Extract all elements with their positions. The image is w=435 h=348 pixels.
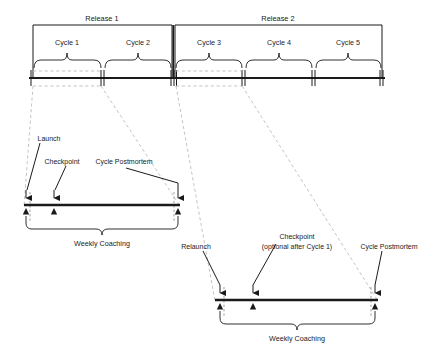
- diagram-canvas: Release 1 Release 2 Cycle 1 Cycle 2 Cycl…: [0, 0, 435, 348]
- release-label-1: Release 1: [85, 14, 118, 23]
- detail-left-down-arrows: [26, 190, 178, 198]
- leader-checkpoint: [55, 166, 66, 190]
- release-box-2: [175, 25, 382, 78]
- detail-right-brace: [220, 311, 375, 330]
- connector-left-a: [24, 86, 33, 206]
- cycle-label-3: Cycle 3: [197, 38, 221, 47]
- detail-left-brace: [26, 216, 178, 235]
- cycle-label-4: Cycle 4: [267, 38, 291, 47]
- annotation-checkpoint-right-sublabel: (optional after Cycle 1): [262, 243, 332, 251]
- detail-left: Launch Checkpoint Cycle Postmortem: [23, 135, 181, 248]
- detail-right: Relaunch Checkpoint (optional after Cycl…: [181, 233, 418, 343]
- connector-right-a: [176, 86, 215, 301]
- leader-cycle-postmortem: [126, 168, 178, 190]
- annotation-checkpoint-right-label: Checkpoint: [279, 233, 314, 241]
- annotation-launch-label: Launch: [38, 135, 61, 142]
- detail-left-up-triangles: [23, 208, 181, 215]
- release-label-2: Release 2: [261, 14, 294, 23]
- connector-fans: [24, 86, 378, 301]
- cycle-label-2: Cycle 2: [126, 38, 150, 47]
- detail-right-up-triangles: [217, 303, 378, 310]
- cycle-label-5: Cycle 5: [336, 38, 360, 47]
- annotation-cycle-postmortem-label: Cycle Postmortem: [95, 158, 152, 166]
- detail-left-brace-label: Weekly Coaching: [74, 239, 130, 248]
- detail-right-down-arrows: [220, 285, 375, 293]
- leader-cycle-postmortem-right: [375, 251, 382, 285]
- annotation-cycle-postmortem-right-label: Cycle Postmortem: [360, 243, 417, 251]
- cycle-braces: [34, 53, 381, 68]
- cycle-label-1: Cycle 1: [55, 38, 79, 47]
- annotation-checkpoint-label: Checkpoint: [44, 158, 79, 166]
- top-timeline: Release 1 Release 2 Cycle 1 Cycle 2 Cycl…: [29, 14, 385, 86]
- release-box-1: [33, 25, 173, 78]
- leader-launch: [27, 143, 40, 190]
- leader-checkpoint-optional: [253, 244, 276, 285]
- annotation-relaunch-label: Relaunch: [181, 243, 211, 250]
- detail-right-brace-label: Weekly Coaching: [269, 334, 325, 343]
- release-cycle-diagram: Release 1 Release 2 Cycle 1 Cycle 2 Cycl…: [0, 0, 435, 348]
- connector-left-b: [101, 86, 180, 206]
- leader-relaunch: [203, 251, 220, 285]
